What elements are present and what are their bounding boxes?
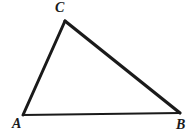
vertex-label-b: B: [176, 118, 185, 132]
vertex-label-c: C: [55, 1, 64, 15]
edge-ab-line: [23, 113, 180, 115]
vertex-label-a: A: [12, 117, 21, 131]
geometry-figure: A B C: [0, 0, 194, 138]
edge-ac-line: [23, 21, 65, 115]
edge-cb-line: [65, 21, 180, 113]
triangle-diagram: [0, 0, 194, 138]
